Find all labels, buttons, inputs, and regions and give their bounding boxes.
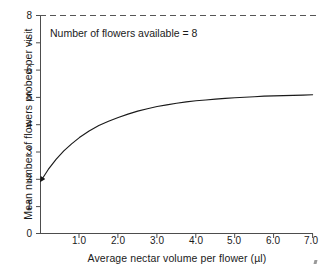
plot-area	[0, 0, 327, 272]
data-curve	[42, 95, 312, 179]
y-axis-ticks	[36, 16, 40, 234]
x-axis-ticks	[79, 234, 313, 239]
figure: Mean number of flowers probed per visit …	[0, 0, 327, 272]
